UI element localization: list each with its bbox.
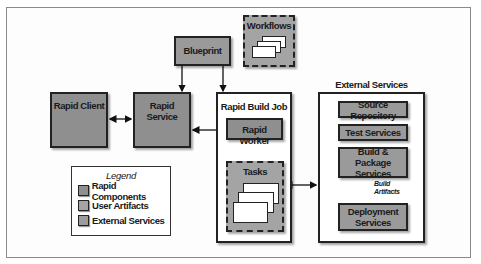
rapid-client-label: Rapid Client	[52, 100, 106, 111]
build-artifacts-line1: Build	[374, 180, 400, 188]
node-source-repository: Source Repository	[338, 101, 408, 118]
rapid-service-label: Rapid Service	[135, 100, 189, 122]
node-build-package-services: Build & Package Services	[338, 147, 408, 178]
node-blueprint: Blueprint	[174, 36, 231, 66]
legend: Legend Rapid Components User Artifacts E…	[71, 166, 171, 236]
build-package-label-line2: Services	[355, 168, 391, 179]
node-workflows: Workflows	[243, 15, 295, 67]
legend-item-user-artifacts: User Artifacts	[78, 199, 148, 212]
legend-item-external-services: External Services	[78, 214, 164, 227]
deployment-label-line2: Services	[355, 217, 391, 228]
workflows-label: Workflows	[245, 20, 293, 31]
task-doc-icon	[233, 202, 268, 223]
external-services-title: External Services	[318, 79, 425, 90]
legend-item-rapid-components: Rapid Components	[78, 184, 170, 197]
node-deployment-services: Deployment Services	[338, 203, 408, 231]
legend-label: User Artifacts	[92, 200, 148, 211]
node-rapid-worker: Rapid Worker	[226, 118, 283, 140]
build-artifacts-line2: Artifacts	[374, 188, 400, 196]
node-rapid-service: Rapid Service	[133, 92, 191, 148]
node-rapid-client: Rapid Client	[50, 92, 108, 148]
legend-label: External Services	[92, 215, 164, 226]
workflow-doc-icon	[252, 46, 276, 58]
deployment-label-line1: Deployment	[348, 206, 398, 217]
build-artifacts-label: Build Artifacts	[374, 180, 400, 196]
swatch-rapid-components	[78, 185, 89, 196]
swatch-external-services	[78, 215, 89, 226]
swatch-user-artifacts	[78, 200, 89, 211]
blueprint-label: Blueprint	[176, 45, 229, 56]
node-tasks: Tasks	[226, 161, 284, 232]
rapid-worker-label: Rapid Worker	[228, 124, 281, 146]
node-test-services: Test Services	[338, 124, 408, 141]
tasks-label: Tasks	[228, 166, 282, 177]
build-package-label-line1: Build & Package	[340, 146, 406, 168]
rapid-build-job-label: Rapid Build Job	[218, 101, 290, 112]
